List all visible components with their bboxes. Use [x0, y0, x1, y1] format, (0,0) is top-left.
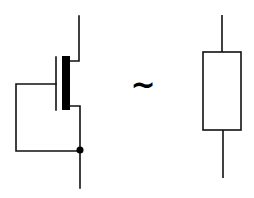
diagram-canvas	[0, 0, 254, 198]
channel-bar	[62, 56, 70, 110]
drain-lead	[70, 16, 79, 61]
resistor-body	[203, 52, 241, 130]
resistor-symbol	[203, 15, 241, 178]
mosfet-symbol	[16, 16, 84, 188]
approx-equivalent-symbol: ~	[128, 70, 158, 100]
junction-dot	[77, 147, 84, 154]
gate-to-source-wire	[16, 84, 80, 151]
